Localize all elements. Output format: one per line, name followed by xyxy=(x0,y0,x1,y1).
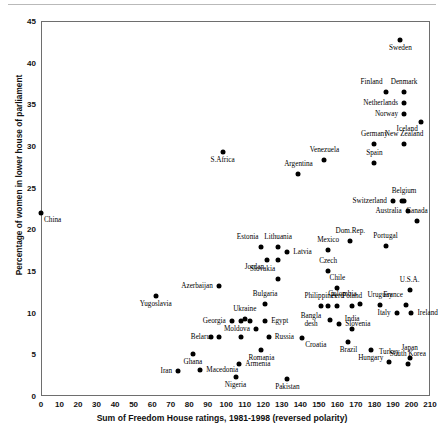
data-point xyxy=(350,326,355,331)
x-tick-180: 180 xyxy=(368,400,381,409)
data-point xyxy=(383,244,388,249)
point-label: Nigeria xyxy=(225,381,247,389)
x-tick-0: 0 xyxy=(39,400,43,409)
data-point xyxy=(39,210,44,215)
data-point xyxy=(285,377,290,382)
point-label: Netherlands xyxy=(363,99,398,107)
y-tick-35: 35 xyxy=(27,100,36,109)
point-label: Czech xyxy=(319,257,337,265)
data-point xyxy=(402,142,407,147)
data-point xyxy=(276,277,281,282)
y-tick-0: 0 xyxy=(32,392,36,401)
data-point xyxy=(346,339,351,344)
data-point xyxy=(390,199,395,204)
x-tick-40: 40 xyxy=(111,400,120,409)
data-point xyxy=(296,172,301,177)
point-label: Australia xyxy=(375,207,401,215)
x-tick-170: 170 xyxy=(349,400,362,409)
x-tick-110: 110 xyxy=(238,400,251,409)
y-axis-title: Percentage of women in lower house of pa… xyxy=(14,60,24,290)
data-point xyxy=(264,258,269,263)
data-point xyxy=(407,288,412,293)
y-tick-15: 15 xyxy=(27,267,36,276)
data-point xyxy=(418,119,423,124)
data-point xyxy=(327,318,332,323)
point-label: Ireland xyxy=(417,309,437,317)
x-tick-80: 80 xyxy=(185,400,194,409)
data-point xyxy=(253,327,258,332)
data-point xyxy=(405,361,410,366)
data-point xyxy=(239,319,244,324)
x-tick-140: 140 xyxy=(294,400,307,409)
point-label: Spain xyxy=(366,149,382,157)
point-label: Belgium xyxy=(392,187,417,195)
x-tick-30: 30 xyxy=(92,400,101,409)
scatter-chart-figure: 051015202530354045 Percentage of women i… xyxy=(0,0,444,430)
data-point xyxy=(394,310,399,315)
x-tick-20: 20 xyxy=(74,400,83,409)
x-tick-70: 70 xyxy=(166,400,175,409)
data-point xyxy=(209,334,214,339)
x-axis-tick-labels: 0102030405060708090100110120130140150160… xyxy=(41,400,430,414)
data-point xyxy=(198,368,203,373)
point-label: Venezuela xyxy=(310,146,340,154)
point-label: Sweden xyxy=(389,44,412,52)
data-point xyxy=(276,258,281,263)
data-point xyxy=(153,294,158,299)
data-point xyxy=(403,303,408,308)
x-axis-title: Sum of Freedom House ratings, 1981-1998 … xyxy=(0,413,444,423)
x-tick-10: 10 xyxy=(55,400,64,409)
x-tick-100: 100 xyxy=(220,400,233,409)
point-label: Croatia xyxy=(305,341,326,349)
point-label: Finland xyxy=(361,78,383,86)
point-label: Moldova xyxy=(224,325,250,333)
data-point xyxy=(368,348,373,353)
y-tick-30: 30 xyxy=(27,142,36,151)
data-point xyxy=(176,369,181,374)
data-point xyxy=(318,304,323,309)
point-label: Bangla desh xyxy=(298,312,324,328)
point-label: Slovakia xyxy=(250,265,275,273)
x-tick-160: 160 xyxy=(331,400,344,409)
point-label: S.Africa xyxy=(210,156,234,164)
point-label: Dom.Rep. xyxy=(336,227,366,235)
data-point xyxy=(400,199,405,204)
data-point xyxy=(348,239,353,244)
x-tick-210: 210 xyxy=(423,400,436,409)
data-point xyxy=(229,319,234,324)
data-point xyxy=(276,244,281,249)
point-label: U.S.A. xyxy=(400,276,420,284)
point-label: China xyxy=(44,216,61,224)
point-label: Brazil xyxy=(340,346,358,354)
data-point xyxy=(350,304,355,309)
data-point xyxy=(326,248,331,253)
data-point xyxy=(402,112,407,117)
point-label: Denmark xyxy=(391,78,418,86)
point-label: Italy xyxy=(377,309,390,317)
y-tick-45: 45 xyxy=(27,17,36,26)
point-label: Lithuania xyxy=(264,233,292,241)
point-label: Germany xyxy=(361,130,388,138)
y-tick-20: 20 xyxy=(27,225,36,234)
x-tick-190: 190 xyxy=(386,400,399,409)
point-label: Egypt xyxy=(271,317,288,325)
data-point xyxy=(415,219,420,224)
top-divider-rule xyxy=(8,4,436,5)
point-label: Yugoslavia xyxy=(140,300,172,308)
data-point xyxy=(337,322,342,327)
data-point xyxy=(263,319,268,324)
point-label: Azerbaijan xyxy=(181,282,213,290)
x-tick-50: 50 xyxy=(129,400,138,409)
point-label: India xyxy=(345,315,360,323)
data-point xyxy=(300,335,305,340)
data-point xyxy=(409,310,414,315)
point-label: Russia xyxy=(275,333,294,341)
data-point xyxy=(372,142,377,147)
point-label: Pakistan xyxy=(275,383,299,391)
data-point xyxy=(233,374,238,379)
point-label: Estonia xyxy=(237,233,259,241)
point-label: Portugal xyxy=(373,232,397,240)
point-label: Bulgaria xyxy=(253,290,278,298)
data-point xyxy=(398,38,403,43)
y-tick-5: 5 xyxy=(32,350,36,359)
